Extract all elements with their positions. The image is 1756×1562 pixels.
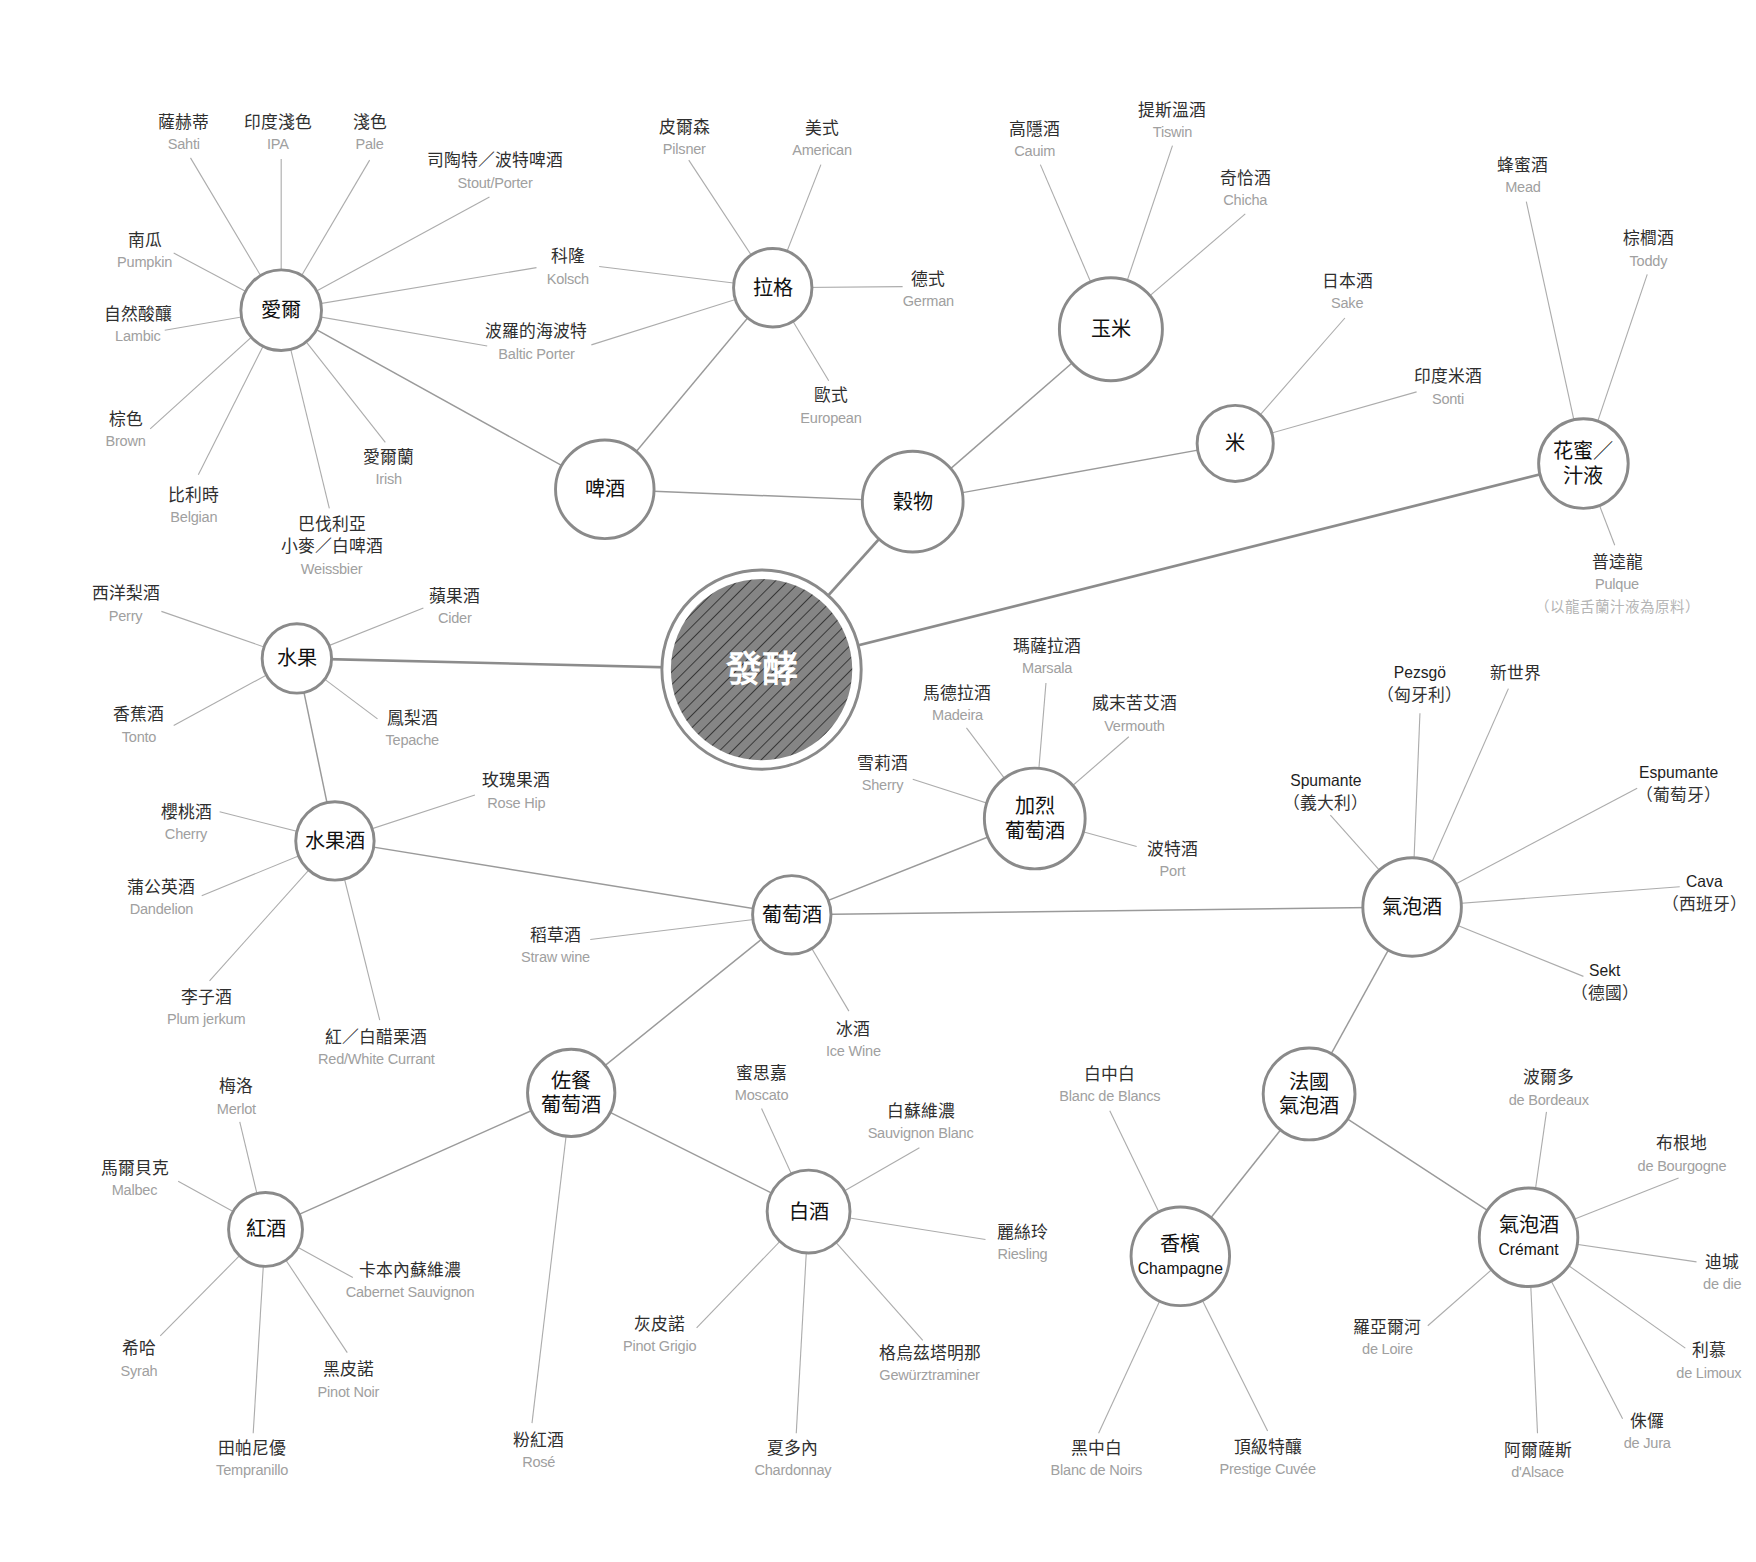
- leaf-label-en: Lambic: [115, 328, 161, 344]
- hub-lager: 拉格: [734, 249, 812, 327]
- leaf-label-en: Stout/Porter: [458, 175, 533, 191]
- leaf-label-zh: 南瓜: [128, 230, 162, 250]
- leaf-marsala: 瑪薩拉酒Marsala: [1013, 636, 1081, 676]
- leaf-label-en: Rose Hip: [487, 795, 545, 811]
- leaf-label-zh: 棕色: [109, 409, 143, 429]
- leaf-rose-hip: 玫瑰果酒Rose Hip: [482, 770, 550, 810]
- leaf-label-en: Pinot Grigio: [623, 1338, 696, 1354]
- leaf-label-en: Ice Wine: [826, 1043, 881, 1059]
- hub-circle: [1479, 1188, 1578, 1287]
- leaf-kolsch: 科隆Kolsch: [547, 246, 589, 286]
- leaf-label-endark: Spumante: [1290, 772, 1362, 789]
- leaf-label-zh: 威末苦艾酒: [1092, 693, 1177, 713]
- leaf-label-en: German: [903, 293, 954, 309]
- leaf-label-zh: 波羅的海波特: [485, 321, 587, 341]
- leaf-label-en: de Loire: [1362, 1341, 1413, 1357]
- leaf-label-endark: Espumante: [1639, 764, 1718, 781]
- leaf-label-zh: 利慕: [1692, 1340, 1726, 1360]
- hub-label: 法國: [1289, 1070, 1329, 1094]
- leaf-pezsgo: Pezsgö（匈牙利）: [1377, 664, 1462, 705]
- hub-rice: 米: [1197, 405, 1273, 481]
- hub-label: 氣泡酒: [1499, 1213, 1559, 1237]
- leaf-cremant-jura: 侏儸de Jura: [1624, 1411, 1672, 1451]
- leaf-label-zh: 美式: [805, 118, 839, 138]
- leaf-pilsner: 皮爾森Pilsner: [659, 117, 710, 157]
- leaf-label-zh: 印度淺色: [244, 112, 312, 132]
- leaf-label-paren: （義大利）: [1283, 793, 1368, 813]
- leaf-label-en: Pumpkin: [117, 254, 172, 270]
- hub-label: 拉格: [753, 276, 793, 300]
- leaf-pumpkin: 南瓜Pumpkin: [117, 230, 172, 270]
- leaf-label-en: European: [800, 410, 861, 426]
- leaf-label-en: Tiswin: [1153, 124, 1192, 140]
- leaf-label-zh: 普逵龍: [1592, 552, 1643, 572]
- hub-label: 葡萄酒: [541, 1093, 601, 1117]
- fermentation-diagram-canvas: 發酵 穀物啤酒拉格愛爾玉米米花蜜／汁液水果水果酒加烈葡萄酒葡萄酒氣泡酒法國氣泡酒…: [0, 0, 1756, 1562]
- leaf-cremant-bourgogne: 布根地de Bourgogne: [1638, 1133, 1727, 1173]
- leaf-label-zh: 淺色: [353, 112, 387, 132]
- leaf-label-en: d'Alsace: [1511, 1464, 1564, 1480]
- leaf-vermouth: 威末苦艾酒Vermouth: [1092, 693, 1177, 733]
- leaf-moscato: 蜜思嘉Moscato: [735, 1063, 789, 1103]
- hub-label: 香檳: [1160, 1232, 1200, 1256]
- leaf-label-zh: 格烏茲塔明那: [879, 1343, 981, 1363]
- leaf-label-zh: 科隆: [551, 246, 585, 266]
- leaf-straw-wine: 稻草酒Straw wine: [521, 925, 590, 965]
- leaf-weissbier: 巴伐利亞小麥／白啤酒Weissbier: [281, 514, 383, 577]
- leaf-tiswin: 提斯溫酒Tiswin: [1138, 100, 1206, 140]
- leaf-prestige-cuvee: 頂級特釀Prestige Cuvée: [1219, 1437, 1315, 1477]
- leaf-new-world: 新世界: [1490, 663, 1541, 683]
- leaf-label-zh: 奇恰酒: [1220, 168, 1271, 188]
- leaf-label-en: Chardonnay: [754, 1462, 832, 1478]
- leaf-mead: 蜂蜜酒Mead: [1497, 155, 1548, 195]
- hub-white: 白酒: [767, 1170, 850, 1253]
- connector-table_wine-rose: [532, 1093, 571, 1423]
- leaf-label-en: Pale: [356, 136, 384, 152]
- leaf-pinot-grigio: 灰皮諾Pinot Grigio: [623, 1314, 696, 1354]
- edge-wine-sparkling: [792, 907, 1412, 915]
- leaf-german: 德式German: [903, 269, 954, 309]
- leaf-gewurztraminer: 格烏茲塔明那Gewürztraminer: [879, 1343, 981, 1383]
- leaf-label-zh: 頂級特釀: [1234, 1437, 1302, 1457]
- leaf-label-zh: 李子酒: [181, 987, 232, 1007]
- leaf-label-en: Madeira: [932, 707, 984, 723]
- hub-label: 啤酒: [585, 477, 625, 501]
- leaf-sauvignon-blanc: 白蘇維濃Sauvignon Blanc: [868, 1101, 974, 1141]
- leaf-label-zh: 稻草酒: [530, 925, 581, 945]
- hub-label: 花蜜／: [1553, 439, 1613, 463]
- hub-ale: 愛爾: [241, 270, 322, 351]
- leaf-label-zh: 麗絲玲: [997, 1222, 1048, 1242]
- leaf-label-endark: Pezsgö: [1394, 664, 1447, 681]
- leaf-label-zh: 冰酒: [836, 1019, 870, 1039]
- leaf-label-paren: （德國）: [1571, 983, 1639, 1003]
- hub-label: 米: [1225, 431, 1245, 455]
- edge-table_wine-red: [266, 1093, 572, 1230]
- leaf-label-en: Syrah: [121, 1363, 158, 1379]
- leaf-label-en: Toddy: [1630, 253, 1669, 269]
- hub-label: 愛爾: [261, 298, 301, 322]
- hub-cremant: 氣泡酒Crémant: [1479, 1188, 1578, 1287]
- hub-circle: [1131, 1207, 1230, 1306]
- hub-label: Crémant: [1499, 1241, 1560, 1258]
- leaf-label-en: Cauim: [1014, 143, 1055, 159]
- leaf-label-en: Straw wine: [521, 949, 590, 965]
- hub-grain: 穀物: [862, 451, 963, 552]
- leaf-plum-jerkum: 李子酒Plum jerkum: [167, 987, 245, 1027]
- leaf-label-en: de Bordeaux: [1509, 1092, 1590, 1108]
- leaf-pale: 淺色Pale: [353, 112, 387, 152]
- leaf-rose: 粉紅酒Rosé: [513, 1430, 564, 1470]
- leaf-label-en: Tempranillo: [216, 1462, 288, 1478]
- leaf-label-zh: 侏儸: [1630, 1411, 1664, 1431]
- hub-label: 水果: [277, 646, 317, 670]
- leaf-label-en: Malbec: [112, 1182, 158, 1198]
- leaf-lambic: 自然酸釀Lambic: [104, 304, 172, 344]
- leaf-tepache: 鳳梨酒Tepache: [385, 708, 439, 748]
- hub-label: 紅酒: [246, 1217, 286, 1241]
- leaf-sahti: 薩赫蒂Sahti: [158, 112, 209, 152]
- leaf-label-en: Tepache: [385, 732, 439, 748]
- leaf-label-zh: 比利時: [168, 485, 219, 505]
- leaf-chicha: 奇恰酒Chicha: [1220, 168, 1271, 208]
- leaf-sonti: 印度米酒Sonti: [1414, 366, 1482, 406]
- leaf-european: 歐式European: [800, 385, 861, 425]
- hub-nodes-layer: 穀物啤酒拉格愛爾玉米米花蜜／汁液水果水果酒加烈葡萄酒葡萄酒氣泡酒法國氣泡酒香檳C…: [229, 249, 1629, 1306]
